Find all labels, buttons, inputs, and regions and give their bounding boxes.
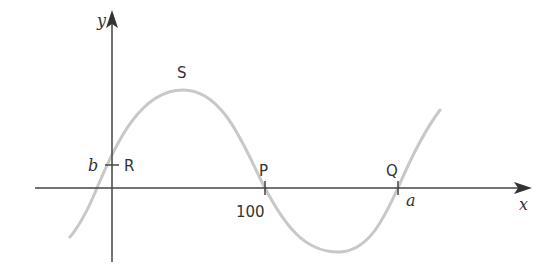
y-axis-label: y — [96, 11, 107, 30]
a-label: a — [406, 191, 416, 210]
sine-graph: y x b R S P 100 Q a — [0, 0, 560, 275]
p-value-label: 100 — [236, 203, 265, 221]
point-p-label: P — [259, 162, 268, 180]
point-r-label: R — [124, 157, 134, 175]
point-s-label: S — [177, 64, 187, 82]
x-axis-label: x — [519, 195, 528, 214]
b-label: b — [88, 156, 98, 175]
point-q-label: Q — [386, 162, 398, 180]
